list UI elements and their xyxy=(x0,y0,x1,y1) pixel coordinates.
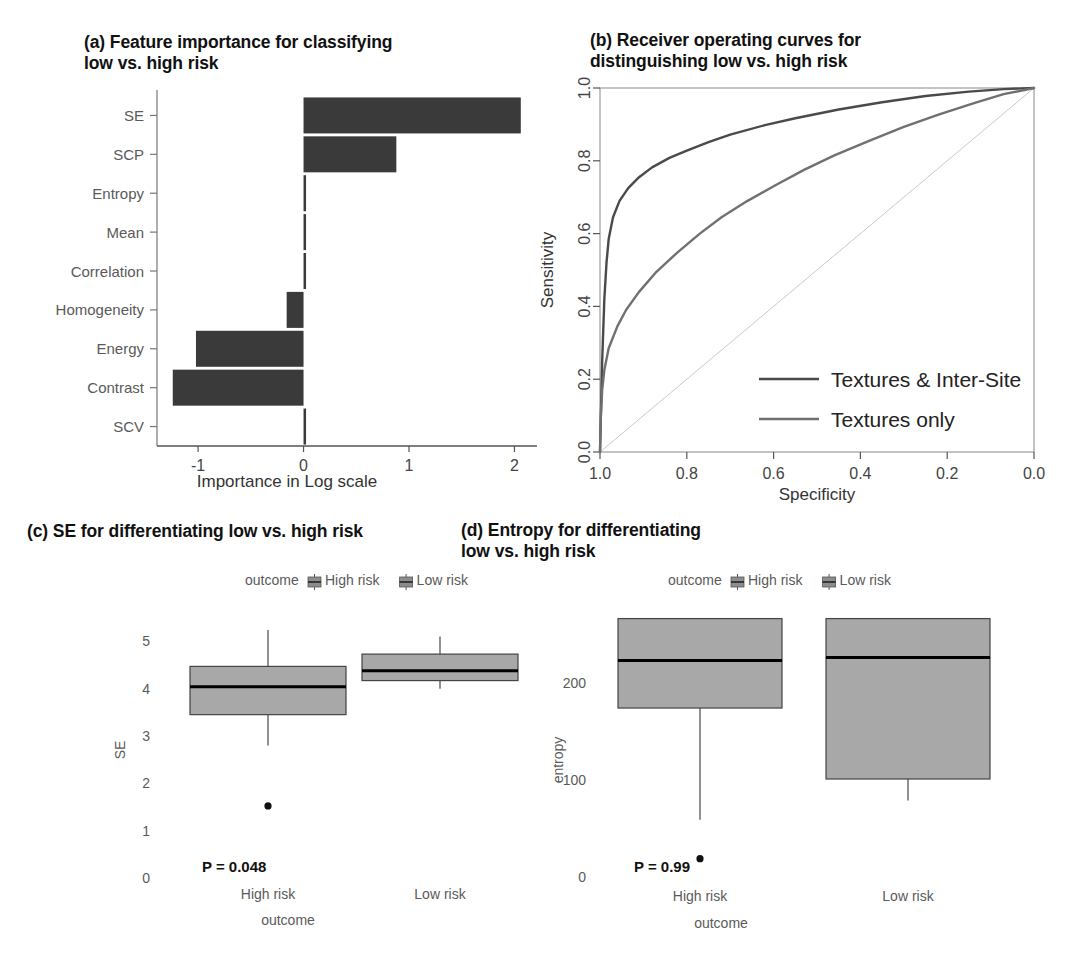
panel-c-xaxis-title: outcome xyxy=(261,912,315,928)
panel-a-ytick-entropy: Entropy xyxy=(92,185,144,202)
panel-a-xaxis-title: Importance in Log scale xyxy=(197,472,378,491)
panel-a-ytick-correlation: Correlation xyxy=(71,263,144,280)
panel-a-ytick-mean: Mean xyxy=(106,224,144,241)
box-iqr xyxy=(362,654,518,680)
panel-b-xtick-1: 0.8 xyxy=(676,465,698,482)
panel-c: (c) SE for differentiating low vs. high … xyxy=(0,500,540,977)
panel-b-legend-label-1: Textures only xyxy=(831,408,955,431)
panel-c-yaxis-title: SE xyxy=(112,741,128,760)
bar-se xyxy=(304,97,521,133)
boxplot-high-risk xyxy=(190,630,346,810)
panel-b-ytick-5: 1.0 xyxy=(576,77,593,99)
panel-c-legend-key-0 xyxy=(308,574,321,590)
bar-energy xyxy=(196,331,304,367)
bar-scv xyxy=(304,409,307,445)
panel-d-category-1: Low risk xyxy=(882,888,934,904)
panel-d-chart: outcomeHigh riskLow risk 0100200 P = 0.9… xyxy=(531,500,1071,977)
outlier-point xyxy=(696,855,703,862)
panel-c-category-0: High risk xyxy=(241,886,296,902)
panel-d-pvalue: P = 0.99 xyxy=(634,858,690,875)
panel-c-ytick-5: 5 xyxy=(142,633,150,649)
panel-c-legend-title: outcome xyxy=(245,572,299,588)
panel-c-ytick-3: 3 xyxy=(142,728,150,744)
panel-d-ytick-2: 200 xyxy=(563,675,587,691)
panel-b-xtick-4: 0.2 xyxy=(936,465,958,482)
panel-b-yaxis-title: Sensitivity xyxy=(538,231,557,308)
panel-d-legend-key-0 xyxy=(731,574,744,590)
panel-b-ytick-0: 0.0 xyxy=(576,441,593,463)
panel-b-xtick-3: 0.4 xyxy=(849,465,871,482)
panel-d-category-0: High risk xyxy=(673,888,728,904)
bar-scp xyxy=(304,136,397,172)
panel-b-xtick-0: 1.0 xyxy=(589,465,611,482)
panel-c-ytick-2: 2 xyxy=(142,775,150,791)
panel-c-legend-key-1 xyxy=(400,574,413,590)
panel-b-ytick-3: 0.6 xyxy=(576,222,593,244)
panel-b-xtick-5: 0.0 xyxy=(1023,465,1045,482)
bar-homogeneity xyxy=(287,292,304,328)
bar-contrast xyxy=(173,370,304,406)
panel-d-ytick-1: 100 xyxy=(563,772,587,788)
panel-b-legend-label-0: Textures & Inter-Site xyxy=(831,368,1021,391)
panel-b-reference-diagonal xyxy=(600,88,1034,452)
box-iqr xyxy=(190,666,346,714)
boxplot-low-risk xyxy=(826,619,990,801)
panel-c-legend-label-0: High risk xyxy=(325,572,380,588)
panel-b: (b) Receiver operating curves for distin… xyxy=(531,0,1071,510)
panel-b-xtick-2: 0.6 xyxy=(762,465,784,482)
boxplot-high-risk xyxy=(618,619,782,863)
panel-b-ytick-2: 0.4 xyxy=(576,295,593,317)
panel-b-ytick-1: 0.2 xyxy=(576,368,593,390)
bar-entropy xyxy=(304,175,307,211)
panel-d-legend-key-1 xyxy=(823,574,836,590)
bar-correlation xyxy=(304,253,307,289)
boxplot-low-risk xyxy=(362,637,518,689)
panel-c-chart: outcomeHigh riskLow risk 012345 P = 0.04… xyxy=(0,500,540,977)
panel-c-ytick-1: 1 xyxy=(142,823,150,839)
panel-b-chart: 1.00.80.60.40.20.00.00.20.40.60.81.0 Tex… xyxy=(531,0,1071,510)
panel-a-ytick-homogeneity: Homogeneity xyxy=(56,301,145,318)
panel-d-xaxis-title: outcome xyxy=(694,915,748,931)
panel-a-ytick-se: SE xyxy=(124,107,144,124)
panel-a-xtick-2: 1 xyxy=(405,457,414,474)
panel-a-ytick-contrast: Contrast xyxy=(87,379,145,396)
panel-c-ytick-4: 4 xyxy=(142,681,150,697)
panel-d-legend-label-1: Low risk xyxy=(840,572,892,588)
panel-a-ytick-energy: Energy xyxy=(96,340,144,357)
box-iqr xyxy=(826,619,990,779)
panel-d-legend-title: outcome xyxy=(668,572,722,588)
box-iqr xyxy=(618,619,782,708)
panel-a: (a) Feature importance for classifying l… xyxy=(0,0,540,500)
panel-d-yaxis-title: entropy xyxy=(550,737,566,784)
panel-a-ytick-scp: SCP xyxy=(113,146,144,163)
panel-d: (d) Entropy for differentiating low vs. … xyxy=(531,500,1071,977)
panel-d-legend-label-0: High risk xyxy=(748,572,803,588)
panel-a-chart: SESCPEntropyMeanCorrelationHomogeneityEn… xyxy=(0,0,540,500)
panel-b-ytick-4: 0.8 xyxy=(576,150,593,172)
panel-a-xtick-3: 2 xyxy=(510,457,519,474)
bar-mean xyxy=(304,214,307,250)
outlier-point xyxy=(264,802,271,809)
panel-c-ytick-0: 0 xyxy=(142,870,150,886)
panel-c-pvalue: P = 0.048 xyxy=(202,858,266,875)
panel-c-category-1: Low risk xyxy=(414,886,466,902)
panel-c-legend-label-1: Low risk xyxy=(417,572,469,588)
panel-d-ytick-0: 0 xyxy=(578,869,586,885)
panel-a-ytick-scv: SCV xyxy=(113,418,144,435)
